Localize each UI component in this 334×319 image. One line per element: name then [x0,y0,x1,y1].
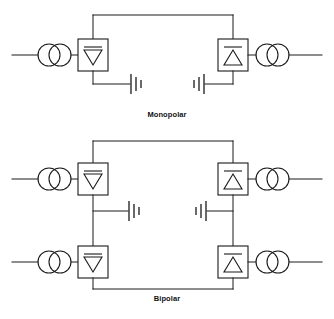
converter-left-lower [78,246,108,278]
ground-symbol-left [131,74,141,94]
transformer-right-lower [256,251,289,273]
hvdc-diagram [0,0,334,319]
converter-right [218,39,248,71]
transformer-left [38,44,71,66]
converter-right-lower [218,246,248,278]
transformer-left-upper [38,168,71,190]
transformer-left-lower [38,251,71,273]
transformer-right-upper [256,168,289,190]
bipolar-diagram [12,141,322,289]
transformer-right [256,44,289,66]
converter-right-upper [218,163,248,195]
caption-monopolar: Monopolar [0,110,334,119]
ground-symbol-right-bipolar [196,201,206,221]
converter-left [78,39,108,71]
ground-symbol-right [194,74,204,94]
converter-left-upper [78,163,108,195]
ground-symbol-left-bipolar [129,201,139,221]
monopolar-diagram [12,15,322,94]
caption-bipolar: Bipolar [0,294,334,303]
diagram-canvas: Monopolar Bipolar [0,0,334,319]
